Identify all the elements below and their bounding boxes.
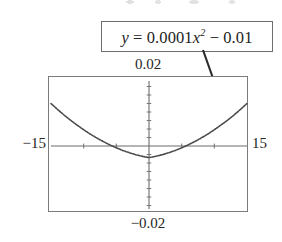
x-min-label: −15	[6, 136, 46, 151]
graph-figure: y = 0.0001x2 − 0.01	[0, 0, 282, 242]
x-max-label: 15	[252, 136, 282, 151]
plot-canvas	[49, 77, 249, 213]
plot-frame	[48, 76, 248, 212]
equation-constant: 0.01	[223, 27, 252, 46]
equation-callout-box: y = 0.0001x2 − 0.01	[101, 21, 273, 52]
y-axis	[147, 81, 152, 209]
equation-text: y = 0.0001x2 − 0.01	[121, 28, 252, 46]
equation-lhs: y	[121, 27, 128, 46]
scan-artifact	[120, 0, 260, 5]
y-min-label: −0.02	[48, 216, 248, 231]
y-max-label: 0.02	[48, 57, 248, 72]
equation-coefficient: 0.0001	[147, 27, 193, 46]
equation-minus-operator: −	[210, 27, 219, 46]
equation-equals: =	[133, 27, 142, 46]
